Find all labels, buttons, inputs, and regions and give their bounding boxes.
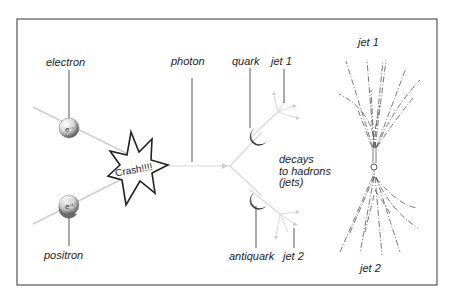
electron-particle: e⁻	[59, 118, 79, 138]
jet2-label-small: jet 2	[283, 251, 304, 263]
positron-symbol: e⁺	[65, 202, 74, 211]
jet1-label-large: jet 1	[358, 37, 379, 49]
electron-label: electron	[46, 57, 85, 69]
positron-label: positron	[44, 250, 83, 262]
mini-jet-2	[274, 210, 300, 240]
photon-label: photon	[171, 56, 205, 68]
decays-label: decays to hadrons (jets)	[279, 154, 331, 189]
jet2-label-large: jet 2	[360, 263, 381, 275]
jet-tracks	[339, 60, 420, 255]
jet1-label-small: jet 1	[271, 56, 292, 68]
quark-lines	[230, 112, 280, 214]
collision-vertex	[371, 164, 377, 170]
electron-symbol: e⁻	[65, 125, 74, 134]
quark-label: quark	[232, 56, 260, 68]
label-pointers	[69, 68, 294, 248]
positron-particle: e⁺	[59, 195, 79, 218]
mini-jet-1	[272, 91, 300, 120]
antiquark-label: antiquark	[229, 251, 274, 263]
